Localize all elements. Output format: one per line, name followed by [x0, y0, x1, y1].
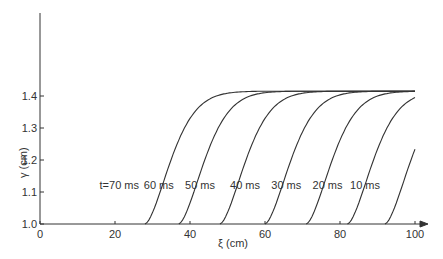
curve-20ms — [348, 98, 416, 224]
x-tick-label: 40 — [184, 228, 196, 240]
series-label: 20 ms — [313, 179, 343, 191]
curve-60ms — [179, 91, 415, 224]
curves — [145, 91, 415, 224]
curve-30ms — [306, 91, 415, 224]
curve-10ms — [385, 149, 415, 224]
y-tick-label: 1.0 — [22, 218, 37, 230]
x-tick-label: 20 — [109, 228, 121, 240]
y-tick-label: 1.4 — [22, 90, 37, 102]
series-label: 50 ms — [185, 179, 215, 191]
y-tick-label: 1.3 — [22, 122, 37, 134]
x-tick-label: 80 — [334, 228, 346, 240]
series-label: 40 ms — [230, 179, 260, 191]
series-label: 60 ms — [144, 179, 174, 191]
x-tick-label: 0 — [37, 228, 43, 240]
series-label: 10 ms — [350, 179, 380, 191]
x-tick-label: 60 — [259, 228, 271, 240]
chart: 0204060801001.01.11.21.31.4 ξ (cm) γ (cm… — [0, 0, 443, 259]
series-label: t=70 ms — [100, 179, 140, 191]
y-axis-label: γ (cm) — [17, 147, 29, 178]
curve-40ms — [265, 91, 415, 224]
series-label: 30 ms — [271, 179, 301, 191]
x-tick-label: 100 — [406, 228, 424, 240]
y-tick-label: 1.1 — [22, 186, 37, 198]
x-axis-label: ξ (cm) — [218, 237, 248, 249]
